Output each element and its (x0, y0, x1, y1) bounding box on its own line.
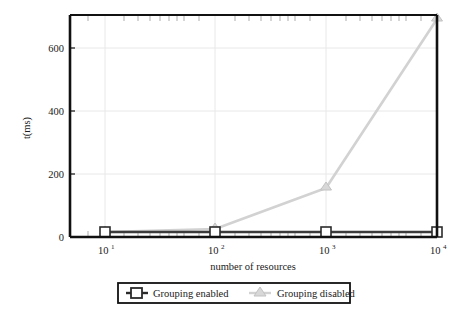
y-tick-label-200: 200 (48, 169, 64, 180)
x-tick-exponent-1: 1 (111, 243, 115, 251)
y-tick-label-400: 400 (48, 106, 64, 117)
x-tick-labels: 10 1 10 2 10 3 10 4 (98, 243, 447, 256)
x-tick-exponent-2: 2 (221, 243, 225, 251)
chart-legend: Grouping enabled Grouping disabled (118, 283, 356, 303)
x-tick-exponent-3: 3 (332, 243, 336, 251)
legend-item-grouping-enabled[interactable]: Grouping enabled (126, 288, 229, 299)
x-tick-label-1: 10 (98, 245, 109, 256)
x-tick-label-3: 10 (319, 245, 330, 256)
y-axis-title: t(ms) (21, 116, 33, 139)
y-tick-label-0: 0 (59, 232, 64, 243)
y-tick-label-600: 600 (48, 43, 64, 54)
x-tick-label-2: 10 (208, 245, 219, 256)
chart-figure: 0 200 400 600 10 1 10 2 10 3 10 4 number… (0, 0, 462, 316)
legend-label-disabled: Grouping disabled (277, 288, 356, 299)
line-chart: 0 200 400 600 10 1 10 2 10 3 10 4 number… (0, 0, 462, 316)
x-tick-exponent-4: 4 (443, 243, 447, 251)
square-marker-icon (131, 288, 142, 298)
y-tick-labels: 0 200 400 600 (48, 43, 64, 243)
x-axis-title: number of resources (210, 261, 296, 272)
legend-label-enabled: Grouping enabled (153, 288, 229, 299)
x-tick-label-4: 10 (430, 245, 441, 256)
